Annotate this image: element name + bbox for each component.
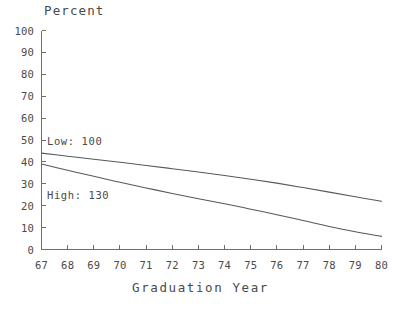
y-tick-label: 10 [8,223,34,234]
series-annotation-low: Low: 100 [47,136,102,147]
x-tick-label: 73 [187,260,209,271]
x-tick-label: 78 [318,260,340,271]
x-tick-label: 77 [292,260,314,271]
y-tick-label: 70 [8,91,34,102]
y-tick-label: 50 [8,135,34,146]
series-annotation-high: High: 130 [47,190,109,201]
x-tick-label: 71 [135,260,157,271]
x-tick-label: 67 [31,260,53,271]
chart-container: Percent Graduation Year Low: 100 High: 1… [0,0,401,309]
x-tick-label: 75 [240,260,262,271]
x-tick-label: 72 [161,260,183,271]
y-tick-label: 20 [8,201,34,212]
y-tick-label: 100 [8,26,34,37]
x-tick-label: 69 [83,260,105,271]
y-axis-title: Percent [44,5,104,18]
x-tick-label: 70 [109,260,131,271]
x-axis-title: Graduation Year [0,282,401,295]
y-tick-label: 30 [8,179,34,190]
y-tick-label: 40 [8,157,34,168]
x-tick-label: 68 [57,260,79,271]
x-tick-label: 76 [266,260,288,271]
y-tick-label: 0 [8,245,34,256]
y-tick-label: 80 [8,69,34,80]
y-tick-label: 90 [8,47,34,58]
x-tick-label: 79 [344,260,366,271]
x-tick-label: 80 [371,260,393,271]
y-tick-label: 60 [8,113,34,124]
x-tick-label: 74 [214,260,236,271]
